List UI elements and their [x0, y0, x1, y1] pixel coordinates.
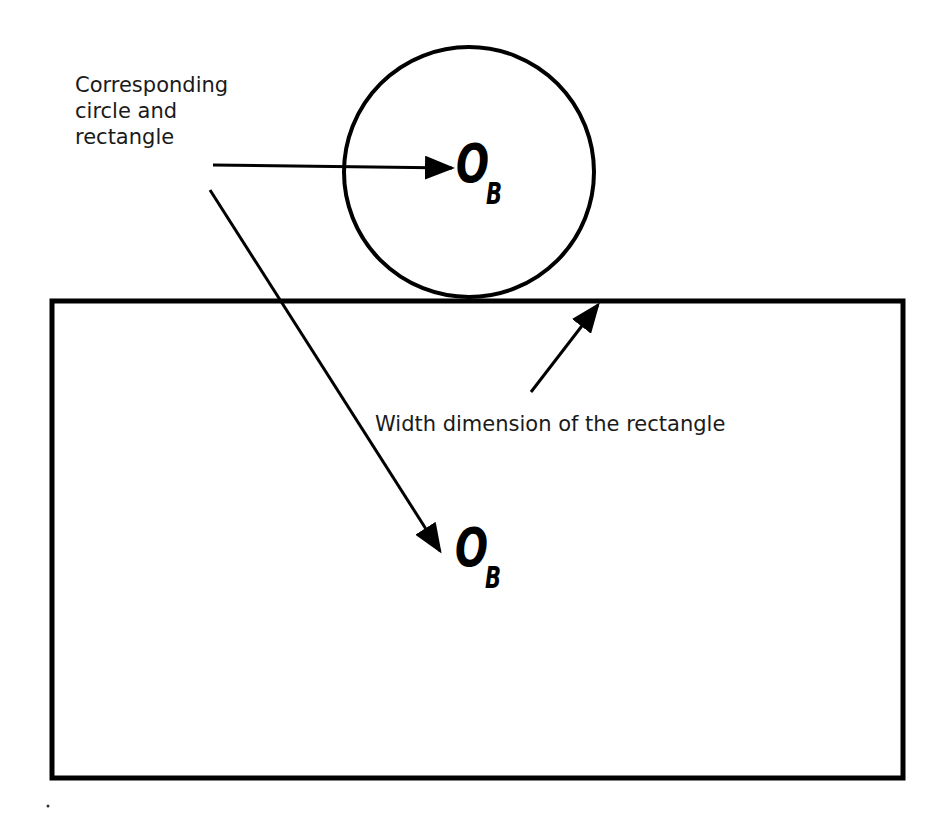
rectangle-center-label: O B [455, 516, 499, 579]
rectangle-center-subscript: B [485, 560, 501, 595]
corresponding-shapes-label: Corresponding circle and rectangle [75, 72, 228, 150]
width-dimension-label: Width dimension of the rectangle [375, 411, 725, 437]
circle-center-symbol: O [456, 132, 488, 195]
circle-center-label: O B [456, 132, 500, 195]
circle-center-subscript: B [486, 176, 502, 211]
stray-dot [47, 805, 50, 808]
rectangle-center-symbol: O [455, 516, 487, 579]
arrow-to-width-edge [531, 305, 598, 392]
arrow-to-circle-center [213, 165, 452, 168]
arrow-to-rectangle-center [210, 190, 440, 551]
